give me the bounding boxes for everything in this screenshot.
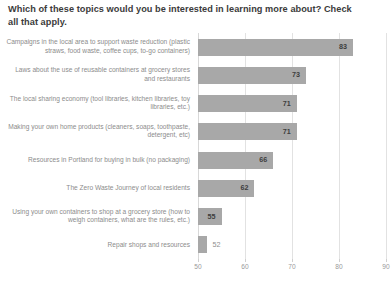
bar[interactable] [198, 67, 306, 84]
plot-area: 8373717166625552 [198, 33, 386, 259]
category-label: The Zero Waste Journey of local resident… [4, 184, 190, 193]
bar-value-label: 52 [212, 241, 220, 248]
bar-row: 52 [198, 236, 386, 253]
bar-value-label: 83 [339, 44, 347, 51]
bar-value-label: 55 [208, 213, 216, 220]
x-axis: 5060708090 [198, 259, 386, 281]
x-tick-mark [292, 259, 293, 262]
bar-row: 66 [198, 152, 386, 169]
chart-title: Which of these topics would you be inter… [8, 3, 364, 28]
x-tick-mark [386, 259, 387, 262]
category-label: Using your own containers to shop at a g… [4, 208, 190, 225]
x-tick-mark [245, 259, 246, 262]
x-tick-label: 60 [241, 264, 248, 271]
bar-row: 71 [198, 95, 386, 112]
bar-value-label: 73 [292, 72, 300, 79]
bar[interactable] [198, 236, 207, 253]
bar-row: 73 [198, 67, 386, 84]
x-tick-mark [198, 259, 199, 262]
category-labels: Campaigns in the local area to support w… [0, 33, 194, 259]
bar-row: 71 [198, 123, 386, 140]
bar-row: 83 [198, 39, 386, 56]
x-tick-label: 80 [335, 264, 342, 271]
gridline-90 [386, 33, 387, 259]
x-tick-label: 90 [382, 264, 389, 271]
category-label: The local sharing economy (tool librarie… [4, 95, 190, 112]
bar-chart: Which of these topics would you be inter… [0, 0, 392, 290]
category-label: Resources in Portland for buying in bulk… [4, 156, 190, 165]
category-label: Laws about the use of reusable container… [4, 67, 190, 84]
bar-value-label: 66 [259, 157, 267, 164]
bar-row: 55 [198, 208, 386, 225]
category-label: Making your own home products (cleaners,… [4, 123, 190, 140]
x-tick-label: 70 [288, 264, 295, 271]
bars-layer: 8373717166625552 [198, 33, 386, 259]
bar-row: 62 [198, 180, 386, 197]
bar-value-label: 71 [283, 100, 291, 107]
bar[interactable] [198, 39, 353, 56]
x-tick-mark [339, 259, 340, 262]
bar-value-label: 71 [283, 128, 291, 135]
category-label: Campaigns in the local area to support w… [4, 39, 190, 56]
category-label: Repair shops and resources [4, 241, 190, 250]
bar-value-label: 62 [240, 185, 248, 192]
x-tick-label: 50 [194, 264, 201, 271]
